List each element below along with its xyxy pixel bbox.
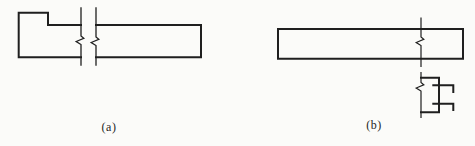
figure-b-label: (b) xyxy=(366,118,382,133)
beam-break-symbol-diagram xyxy=(0,0,475,146)
stepped-bar-right-outline xyxy=(96,25,201,57)
figure-a-label: (a) xyxy=(102,120,117,135)
lower-hooked-bar xyxy=(433,104,453,110)
connection-box-outline xyxy=(421,78,439,113)
figure-b xyxy=(278,18,463,118)
stepped-bar-left-outline xyxy=(19,13,81,58)
figure-a xyxy=(19,8,201,65)
bar-outline xyxy=(278,29,463,59)
diagram-canvas: (a) (b) xyxy=(0,0,475,146)
centerline-lower-with-zigzag xyxy=(416,73,424,118)
upper-hooked-bar xyxy=(433,85,453,92)
